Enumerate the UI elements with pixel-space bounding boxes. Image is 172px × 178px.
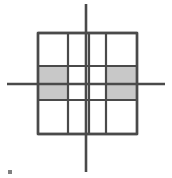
diagram-canvas bbox=[0, 0, 172, 178]
geometric-diagram-figure bbox=[0, 0, 172, 178]
shaded-cell-right-lower-middle bbox=[106, 84, 137, 100]
shaded-cell-left-lower-middle bbox=[38, 84, 68, 100]
shaded-cell-left-upper-middle bbox=[38, 66, 68, 84]
artifact-speck bbox=[8, 170, 12, 174]
shaded-cell-right-upper-middle bbox=[106, 66, 137, 84]
